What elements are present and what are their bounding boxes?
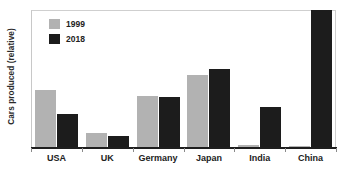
bar-group-china [289,10,332,148]
chart-legend: 1999 2018 [49,19,85,44]
x-tick-6 [336,148,337,152]
x-tick-3 [184,148,185,152]
legend-item-2018: 2018 [49,34,85,44]
bar-chart-figure: Cars produced (relative) USAUKGermanyJap… [0,0,350,176]
bar-group-japan [187,10,230,148]
bar-germany-1999 [137,96,158,148]
bar-japan-2018 [209,69,230,148]
legend-item-1999: 1999 [49,19,85,29]
bar-china-2018 [311,10,332,148]
x-tick-1 [82,148,83,152]
y-axis-title-container: Cars produced (relative) [0,0,22,152]
legend-swatch-1999-icon [49,19,60,29]
x-tick-0 [31,148,32,152]
x-tick-4 [234,148,235,152]
x-tick-label-china: China [285,153,336,163]
x-tick-label-germany: Germany [133,153,184,163]
bar-uk-1999 [86,133,107,148]
legend-swatch-2018-icon [49,34,60,44]
x-tick-label-usa: USA [31,153,82,163]
bar-japan-1999 [187,75,208,148]
bar-usa-2018 [57,114,78,149]
y-axis-title: Cars produced (relative) [7,28,16,125]
x-tick-label-japan: Japan [184,153,235,163]
legend-label-1999: 1999 [66,19,85,29]
bar-india-2018 [260,107,281,148]
x-axis-tick-labels: USAUKGermanyJapanIndiaChina [31,153,336,169]
bar-group-germany [137,10,180,148]
bar-group-uk [86,10,129,148]
bar-group-india [238,10,281,148]
x-tick-label-uk: UK [82,153,133,163]
x-tick-5 [285,148,286,152]
legend-label-2018: 2018 [66,34,85,44]
x-tick-2 [133,148,134,152]
bar-germany-2018 [159,97,180,148]
x-tick-label-india: India [234,153,285,163]
bar-usa-1999 [35,90,56,148]
